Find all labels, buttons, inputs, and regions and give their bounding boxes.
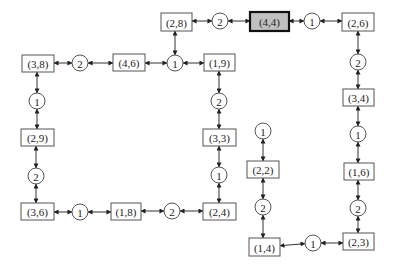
node-box: (1,9) [204,54,235,71]
node-circle-label: 2 [355,203,361,215]
node-circle: 2 [212,13,228,29]
node-circle-label: 2 [355,57,361,69]
node-circle-label: 2 [77,58,83,70]
node-circle-label: 1 [310,238,316,250]
graph-diagram: (2,8)(4,4)(2,6)(3,8)(4,6)(1,9)(3,4)(2,9)… [0,0,397,269]
node-circle: 1 [255,123,271,139]
node-box-label: (1,6) [348,166,369,179]
node-circle: 1 [72,204,88,220]
node-box: (3,3) [203,129,236,146]
node-box: (3,6) [21,203,54,220]
node-box: (2,8) [161,13,192,31]
node-box-label: (3,3) [209,132,230,145]
node-circle-label: 1 [77,207,83,219]
node-circle: 2 [255,199,271,215]
node-box: (1,8) [111,203,141,220]
node-circle: 2 [72,55,88,71]
node-circle-label: 1 [309,16,315,28]
node-circle: 1 [211,167,227,183]
node-box: (2,6) [342,13,374,31]
node-box: (2,3) [343,233,374,250]
node-box: (3,4) [343,89,374,106]
node-circle-label: 2 [260,202,266,214]
node-circle-label: 1 [216,170,222,182]
node-box: (3,8) [22,55,54,72]
node-box-label: (1,8) [115,206,136,219]
node-circle: 1 [304,13,320,29]
node-box-label: (2,9) [27,132,48,145]
node-box: (1,4) [249,238,280,256]
node-circle-label: 2 [216,96,222,108]
node-circle-label: 2 [169,206,175,218]
node-box: (4,6) [113,54,145,71]
node-circle-label: 1 [172,58,178,70]
node-circle-label: 2 [33,171,39,183]
node-box: (2,4) [203,203,236,220]
node-box: (2,9) [21,129,54,146]
node-box-label: (3,6) [27,206,48,219]
node-box-label: (2,3) [348,236,369,249]
node-box-label: (1,4) [254,242,275,255]
node-circle-label: 2 [217,16,223,28]
node-box-label: (4,4) [259,16,280,29]
node-circle: 1 [29,93,45,109]
node-circle: 2 [350,54,366,70]
node-circle: 2 [211,93,227,109]
node-box-current: (4,4) [250,12,289,31]
node-circle-label: 1 [260,126,266,138]
node-box: (1,6) [344,163,374,180]
node-box-label: (4,6) [118,57,139,70]
node-box-label: (1,9) [209,57,230,70]
node-circle-label: 1 [34,96,40,108]
node-circle-label: 1 [355,129,361,141]
node-box: (2,2) [247,161,279,178]
node-circle: 1 [167,55,183,71]
node-circle: 2 [164,203,180,219]
node-circle: 1 [350,126,366,142]
node-circle: 1 [305,235,321,251]
node-box-label: (2,4) [209,206,230,219]
nodes-layer: (2,8)(4,4)(2,6)(3,8)(4,6)(1,9)(3,4)(2,9)… [21,12,374,256]
node-circle: 2 [350,200,366,216]
node-box-label: (3,8) [27,58,48,71]
node-circle: 2 [28,168,44,184]
node-box-label: (2,8) [166,17,187,30]
node-box-label: (3,4) [348,92,369,105]
bidirectional-arrow-edge [280,244,305,246]
node-box-label: (2,6) [347,17,368,30]
node-box-label: (2,2) [252,164,273,177]
